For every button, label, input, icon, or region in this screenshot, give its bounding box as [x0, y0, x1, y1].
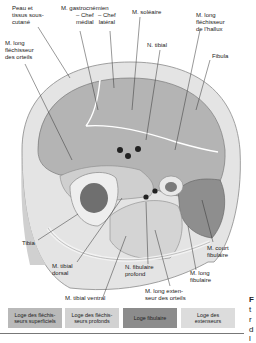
caption-fragment-5: l — [249, 334, 251, 343]
bottom-rule — [0, 333, 244, 334]
deep-fibular-vessel — [143, 194, 148, 199]
caption-fragment-1: F — [249, 295, 254, 305]
legend-fibular: Loge fibulaire — [123, 308, 177, 328]
label-skin-subcutaneous: Peau et tissus sous- cutané — [12, 5, 44, 27]
leg-cross-section-figure: Peau et tissus sous- cutané M. gastrocné… — [0, 0, 256, 343]
caption-fragment-2: t — [249, 305, 251, 315]
label-fibula: Fibula — [212, 53, 228, 60]
label-gastrocnemius-lateral: – Chef latéral — [98, 12, 116, 26]
legend-superficial-flexors: Loge des fléchis- seurs superficiels — [8, 308, 62, 328]
label-soleus: M. soléaire — [132, 9, 161, 16]
caption-fragment-3: r — [249, 315, 252, 325]
label-deep-fibular-nerve: N. fibulaire profond — [125, 264, 154, 278]
legend-deep-flexors: Loge des fléchis- seurs profonds — [65, 308, 119, 328]
label-tibia: Tibia — [22, 240, 35, 247]
label-tibialis-posterior: M. tibial dorsal — [52, 263, 73, 277]
label-flexor-digitorum-longus: M. long fléchisseur des orteils — [5, 40, 34, 62]
label-fibularis-brevis: M. court fibulaire — [207, 245, 229, 259]
label-fibularis-longus: M. long fibulaire — [190, 270, 211, 284]
legend-extensors: Loge des extenseurs — [181, 308, 235, 328]
label-tibial-nerve: N. tibial — [147, 42, 167, 49]
label-flexor-hallucis-longus: M. long fléchisseur de l'hallux — [196, 12, 225, 34]
tibial-vessel — [117, 147, 123, 153]
label-extensor-digitorum-longus: M. long exten- seur des orteils — [145, 288, 186, 302]
label-tibialis-anterior: M. tibial ventral — [65, 295, 105, 302]
